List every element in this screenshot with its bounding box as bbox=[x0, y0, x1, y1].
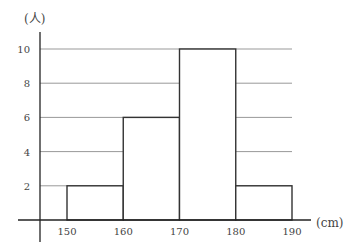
histogram-bars bbox=[67, 49, 292, 220]
x-tick-label: 160 bbox=[114, 226, 133, 237]
histogram-bar bbox=[67, 186, 123, 220]
histogram-chart: 246810 150160170180190 (人) (cm) bbox=[0, 0, 353, 251]
y-tick-label: 2 bbox=[24, 181, 30, 192]
histogram-bar bbox=[123, 117, 179, 220]
y-tick-label: 10 bbox=[17, 44, 30, 55]
x-tick-label: 150 bbox=[57, 226, 76, 237]
x-tick-labels: 150160170180190 bbox=[57, 226, 301, 237]
y-tick-label: 6 bbox=[24, 112, 30, 123]
histogram-bar bbox=[180, 49, 236, 220]
x-tick-label: 190 bbox=[282, 226, 301, 237]
x-tick-label: 170 bbox=[170, 226, 189, 237]
y-tick-label: 8 bbox=[24, 78, 30, 89]
y-tick-labels: 246810 bbox=[17, 44, 30, 192]
x-tick-label: 180 bbox=[226, 226, 245, 237]
x-axis-unit-label: (cm) bbox=[316, 216, 343, 230]
histogram-bar bbox=[236, 186, 292, 220]
y-axis-unit-label: (人) bbox=[24, 12, 45, 26]
y-tick-label: 4 bbox=[24, 147, 30, 158]
